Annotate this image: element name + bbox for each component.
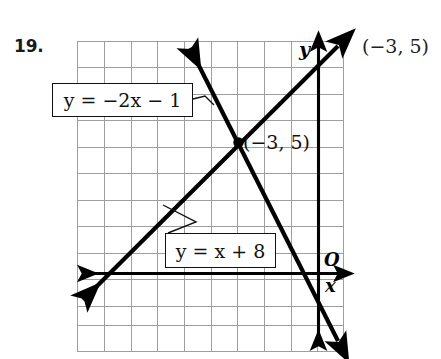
origin-label: O: [324, 249, 340, 270]
line-label-box-1: y = −2x − 1: [52, 83, 193, 117]
line-label-text-2: y = x + 8: [176, 240, 266, 262]
x-axis-label: x: [325, 275, 336, 296]
graph-lines-and-axes: [0, 0, 441, 359]
worksheet-problem: 19. (−3, 5): [0, 0, 441, 359]
intersection-point-label: (−3, 5): [243, 131, 310, 153]
line-y-equals-minus-2x-minus-1: [190, 48, 338, 341]
callout-leader-line1: [193, 96, 214, 105]
callout-leader-line2: [163, 205, 196, 233]
line-label-box-2: y = x + 8: [165, 233, 276, 268]
line-label-text-1: y = −2x − 1: [64, 89, 182, 111]
y-axis-label: y: [299, 38, 310, 60]
